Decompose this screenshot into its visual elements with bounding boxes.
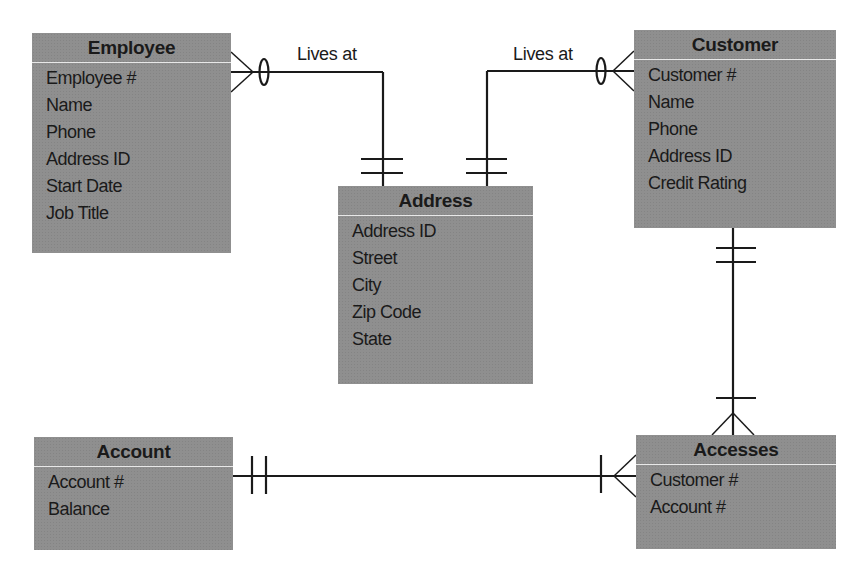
attribute: Employee # bbox=[46, 65, 231, 92]
entity-address[interactable]: Address Address ID Street City Zip Code … bbox=[338, 186, 533, 384]
attribute: Balance bbox=[48, 496, 233, 523]
relationship-label-customer-lives-at: Lives at bbox=[513, 44, 573, 65]
attribute: Street bbox=[352, 245, 533, 272]
relationship-customer-address bbox=[466, 51, 634, 186]
attribute-list: Address ID Street City Zip Code State bbox=[338, 216, 533, 353]
entity-title: Address bbox=[338, 186, 533, 216]
attribute: Customer # bbox=[650, 467, 836, 494]
attribute: Credit Rating bbox=[648, 170, 836, 197]
attribute: Start Date bbox=[46, 173, 231, 200]
attribute: Name bbox=[648, 89, 836, 116]
entity-title: Account bbox=[34, 437, 233, 467]
attribute: Name bbox=[46, 92, 231, 119]
entity-title: Employee bbox=[32, 33, 231, 63]
attribute: Zip Code bbox=[352, 299, 533, 326]
attribute: Account # bbox=[650, 494, 836, 521]
attribute-list: Account # Balance bbox=[34, 467, 233, 523]
relationship-employee-address bbox=[231, 52, 403, 186]
entity-employee[interactable]: Employee Employee # Name Phone Address I… bbox=[32, 33, 231, 253]
attribute-list: Customer # Account # bbox=[636, 465, 836, 521]
relationship-customer-accesses bbox=[712, 228, 756, 436]
attribute: City bbox=[352, 272, 533, 299]
entity-customer[interactable]: Customer Customer # Name Phone Address I… bbox=[634, 30, 836, 228]
entity-account[interactable]: Account Account # Balance bbox=[34, 437, 233, 550]
attribute: Job Title bbox=[46, 200, 231, 227]
attribute: Customer # bbox=[648, 62, 836, 89]
attribute-list: Employee # Name Phone Address ID Start D… bbox=[32, 63, 231, 227]
attribute: State bbox=[352, 326, 533, 353]
attribute: Phone bbox=[648, 116, 836, 143]
attribute: Address ID bbox=[352, 218, 533, 245]
attribute: Phone bbox=[46, 119, 231, 146]
attribute: Address ID bbox=[46, 146, 231, 173]
entity-accesses[interactable]: Accesses Customer # Account # bbox=[636, 435, 836, 549]
entity-title: Accesses bbox=[636, 435, 836, 465]
entity-title: Customer bbox=[634, 30, 836, 60]
attribute: Account # bbox=[48, 469, 233, 496]
relationship-label-employee-lives-at: Lives at bbox=[297, 44, 357, 65]
attribute: Address ID bbox=[648, 143, 836, 170]
attribute-list: Customer # Name Phone Address ID Credit … bbox=[634, 60, 836, 197]
relationship-account-accesses bbox=[233, 455, 636, 497]
